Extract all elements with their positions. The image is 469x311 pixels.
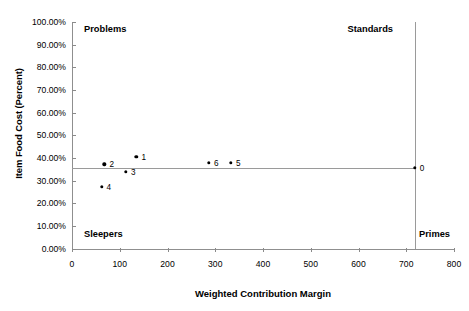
- x-tick-mark: [263, 248, 264, 252]
- y-tick-label: 10.00%: [37, 221, 66, 231]
- x-tick-mark: [120, 248, 121, 252]
- x-tick-label: 800: [447, 259, 461, 269]
- y-tick-mark: [72, 135, 76, 136]
- data-point-label: 4: [107, 182, 112, 191]
- y-tick-mark: [72, 226, 76, 227]
- x-tick-mark: [406, 248, 407, 252]
- y-tick-mark: [72, 203, 76, 204]
- data-point: [103, 163, 106, 166]
- y-tick-label: 70.00%: [37, 85, 66, 95]
- data-point-label: 0: [420, 164, 425, 173]
- x-tick-label: 100: [113, 259, 127, 269]
- x-tick-mark: [359, 248, 360, 252]
- quadrant-label-sleepers: Sleepers: [84, 229, 123, 239]
- data-point-label: 3: [131, 167, 136, 176]
- data-point: [135, 155, 138, 158]
- data-point-label: 5: [236, 158, 241, 167]
- x-tick-label: 700: [399, 259, 413, 269]
- y-tick-mark: [72, 158, 76, 159]
- y-tick-label: 90.00%: [37, 40, 66, 50]
- y-tick-mark: [72, 45, 76, 46]
- quadrant-label-standards: Standards: [348, 24, 393, 34]
- data-point-label: 2: [109, 160, 114, 169]
- y-tick-label: 40.00%: [37, 153, 66, 163]
- data-point: [207, 161, 210, 164]
- y-tick-mark: [72, 67, 76, 68]
- y-tick-mark: [72, 181, 76, 182]
- x-tick-label: 500: [304, 259, 318, 269]
- y-tick-label: 80.00%: [37, 62, 66, 72]
- y-tick-label: 0.00%: [42, 244, 66, 254]
- y-tick-label: 50.00%: [37, 130, 66, 140]
- x-tick-label: 200: [160, 259, 174, 269]
- y-tick-label: 100.00%: [32, 17, 66, 27]
- y-tick-mark: [72, 90, 76, 91]
- y-tick-label: 60.00%: [37, 108, 66, 118]
- y-axis-tick-labels: 0.00%10.00%20.00%30.00%40.00%50.00%60.00…: [0, 0, 66, 311]
- x-tick-mark: [168, 248, 169, 252]
- x-tick-mark: [72, 248, 73, 252]
- x-tick-label: 600: [351, 259, 365, 269]
- scatter-chart: Item Food Cost (Percent) 0.00%10.00%20.0…: [0, 0, 469, 311]
- y-tick-mark: [72, 113, 76, 114]
- x-tick-label: 0: [70, 259, 75, 269]
- x-tick-label: 300: [208, 259, 222, 269]
- horizontal-reference-line: [72, 168, 415, 169]
- data-point-label: 1: [141, 152, 146, 161]
- x-tick-label: 400: [256, 259, 270, 269]
- x-tick-mark: [454, 248, 455, 252]
- x-axis-title: Weighted Contribution Margin: [72, 288, 454, 299]
- quadrant-label-primes: Primes: [419, 229, 450, 239]
- y-tick-label: 30.00%: [37, 176, 66, 186]
- data-point: [124, 170, 127, 173]
- quadrant-label-problems: Problems: [84, 24, 126, 34]
- x-tick-mark: [311, 248, 312, 252]
- data-point: [229, 161, 232, 164]
- data-point: [100, 185, 103, 188]
- vertical-reference-line: [415, 22, 416, 249]
- x-tick-mark: [215, 248, 216, 252]
- y-tick-label: 20.00%: [37, 198, 66, 208]
- y-tick-mark: [72, 22, 76, 23]
- data-point-label: 6: [214, 158, 219, 167]
